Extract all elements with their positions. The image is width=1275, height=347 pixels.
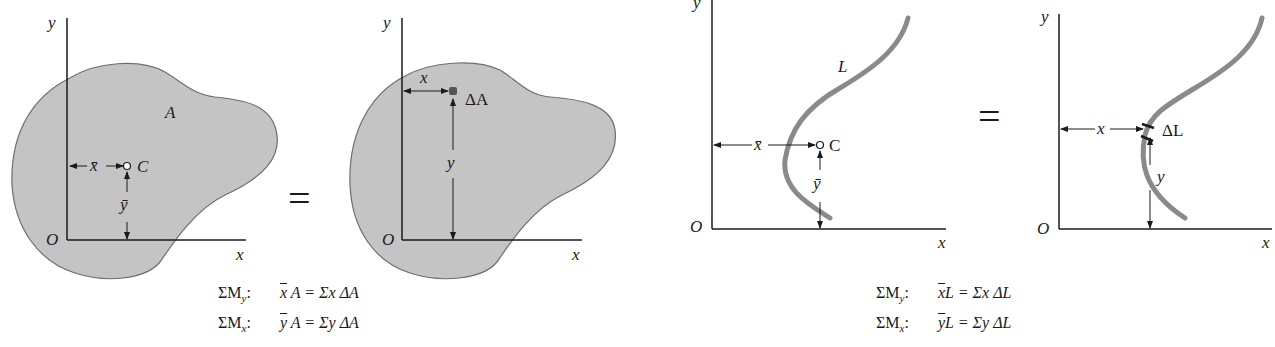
x-label: x (419, 68, 428, 87)
x-axis-label: x (937, 233, 946, 252)
y-axis-label: y (1039, 7, 1049, 26)
line-curve (785, 18, 908, 218)
y-axis-label: y (381, 13, 391, 32)
xbar-label: x̄ (89, 156, 98, 175)
area-element-point (449, 87, 457, 95)
centroid-label: C (137, 157, 149, 176)
equation-line-my: ΣMy:xL = Σx ΔL (876, 284, 1011, 304)
y-label: y (1155, 167, 1165, 186)
equation-area-mx: ΣMx:y A = Σy ΔA (218, 314, 359, 334)
y-axis-label: y (46, 13, 56, 32)
element-label: ΔL (1162, 121, 1183, 140)
x-axis-label: x (1261, 233, 1270, 252)
x-label: x (1096, 119, 1105, 138)
area-label: A (164, 103, 176, 122)
y-axis-label: y (691, 0, 701, 12)
origin-label: O (690, 217, 702, 236)
centroid-point (124, 163, 131, 170)
element-label: ΔA (465, 90, 489, 109)
origin-label: O (1037, 219, 1049, 238)
equation-area-my: ΣMy:x A = Σx ΔA (218, 284, 359, 304)
panel-line-centroid: y x O L x̄ C ȳ (690, 0, 946, 252)
panel-line-element: y x O x ΔL y (1037, 7, 1272, 252)
x-axis-label: x (571, 245, 580, 264)
origin-label: O (382, 230, 394, 249)
panel-area-element: y x O x ΔA y (350, 13, 616, 279)
y-label: y (445, 153, 455, 172)
xbar-label: x̄ (753, 135, 762, 154)
ybar-label: ȳ (118, 195, 128, 214)
line-curve (1143, 18, 1262, 218)
x-axis-label: x (235, 245, 244, 264)
equals-sign: = (978, 94, 1001, 139)
equals-sign: = (288, 176, 311, 221)
centroid-diagram: y x O A x̄ C ȳ = y x O x ΔA y y x O (0, 0, 1275, 347)
ybar-label: ȳ (811, 174, 821, 193)
panel-area-centroid: y x O A x̄ C ȳ (12, 13, 277, 279)
centroid-point (817, 142, 824, 149)
origin-label: O (46, 230, 58, 249)
centroid-label: C (829, 136, 840, 155)
equation-line-mx: ΣMx:yL = Σy ΔL (876, 314, 1011, 334)
line-label: L (837, 57, 847, 76)
